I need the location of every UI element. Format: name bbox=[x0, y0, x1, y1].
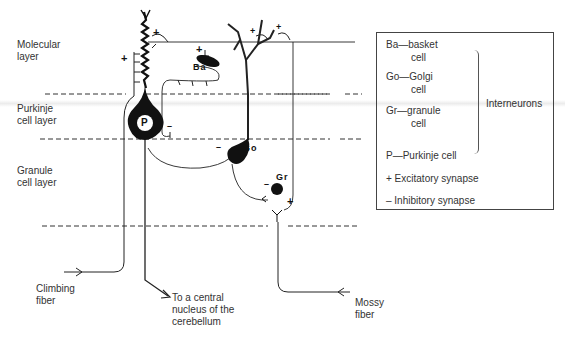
legend-basket: Ba—basket bbox=[386, 39, 438, 51]
inhibitory-sign: – bbox=[216, 142, 222, 152]
granule-axon bbox=[284, 42, 293, 210]
output-label: To a central nucleus of the cerebellum bbox=[172, 292, 234, 328]
legend-interneurons-label: Interneurons bbox=[486, 98, 542, 110]
legend-excitatory: + Excitatory synapse bbox=[386, 173, 479, 185]
inhibitory-sign: – bbox=[264, 179, 270, 189]
excitatory-sign: + bbox=[196, 43, 203, 55]
layer-boundaries bbox=[40, 94, 362, 226]
legend-granule: Gr—granule bbox=[386, 105, 440, 117]
legend-basket-suffix: cell bbox=[411, 52, 426, 63]
inhibitory-sign: – bbox=[167, 121, 173, 131]
layer-label-granule: Granule cell layer bbox=[17, 165, 56, 189]
mossy-fiber bbox=[278, 222, 350, 292]
purkinje-axon bbox=[145, 135, 168, 296]
golgi-cell-label: Go bbox=[243, 143, 258, 153]
excitatory-sign: + bbox=[250, 26, 256, 36]
granule-soma bbox=[271, 183, 283, 195]
mossy-fiber-label: Mossy fiber bbox=[355, 297, 384, 321]
layer-label-molecular: Molecular layer bbox=[17, 39, 60, 63]
climbing-fiber-label: Climbing fiber bbox=[36, 283, 75, 307]
granule-cell-label: Gr bbox=[276, 172, 289, 182]
excitatory-sign: + bbox=[287, 195, 294, 207]
purkinje-dendrite bbox=[142, 12, 148, 88]
excitatory-sign: + bbox=[121, 52, 128, 64]
interneurons-brace bbox=[474, 50, 479, 154]
excitatory-sign: + bbox=[153, 26, 160, 38]
legend-granule-suffix: cell bbox=[411, 118, 426, 129]
legend-golgi: Go—Golgi bbox=[386, 71, 433, 83]
climbing-fiber bbox=[64, 52, 134, 272]
legend-golgi-suffix: cell bbox=[411, 84, 426, 95]
excitatory-sign: + bbox=[276, 22, 282, 32]
legend-purkinje: P—Purkinje cell bbox=[386, 150, 457, 162]
legend-inhibitory: – Inhibitory synapse bbox=[386, 195, 475, 207]
purkinje-cell-label: P bbox=[141, 117, 149, 128]
basket-cell-label: Ba bbox=[193, 62, 207, 72]
legend-box: Ba—basket cell Go—Golgi cell Gr—granule … bbox=[376, 32, 554, 210]
layer-label-purkinje: Purkinje cell layer bbox=[17, 103, 56, 127]
